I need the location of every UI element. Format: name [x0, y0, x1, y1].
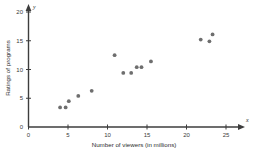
y-axis-title: Ratings of programs [4, 40, 11, 96]
y-axis-variable-label: y [32, 4, 36, 10]
data-points-group [58, 33, 214, 110]
y-tick-label: 20 [16, 9, 23, 15]
data-point [121, 71, 125, 75]
x-tick-label: 25 [223, 132, 230, 138]
y-tick-label: 5 [20, 95, 24, 101]
data-point [208, 39, 212, 43]
data-point [67, 99, 71, 103]
x-axis-arrow-icon [238, 124, 245, 130]
chart-canvas: 0510152025 05101520 Number of viewers (i… [0, 0, 266, 152]
x-tick-label: 15 [144, 132, 151, 138]
x-tick-label: 5 [66, 132, 70, 138]
x-tick-label: 20 [183, 132, 190, 138]
data-point [64, 106, 68, 110]
data-point [76, 94, 80, 98]
scatter-plot-figure: 0510152025 05101520 Number of viewers (i… [0, 0, 266, 152]
y-tick-label: 0 [20, 124, 24, 130]
x-tick-label: 10 [104, 132, 111, 138]
data-point [140, 65, 144, 69]
y-tick-label: 10 [16, 67, 23, 73]
y-tick-label: 15 [16, 38, 23, 44]
data-point [199, 38, 203, 42]
data-point [135, 65, 139, 69]
data-point [129, 71, 133, 75]
x-axis-title: Number of viewers (in millions) [92, 141, 177, 148]
x-tick-label: 0 [27, 132, 31, 138]
data-point [113, 53, 117, 57]
data-point [90, 89, 94, 93]
x-axis-variable-label: x [245, 117, 249, 123]
data-point [58, 106, 62, 110]
data-point [149, 60, 153, 64]
y-axis-arrow-icon [26, 4, 32, 11]
data-point [211, 33, 215, 37]
